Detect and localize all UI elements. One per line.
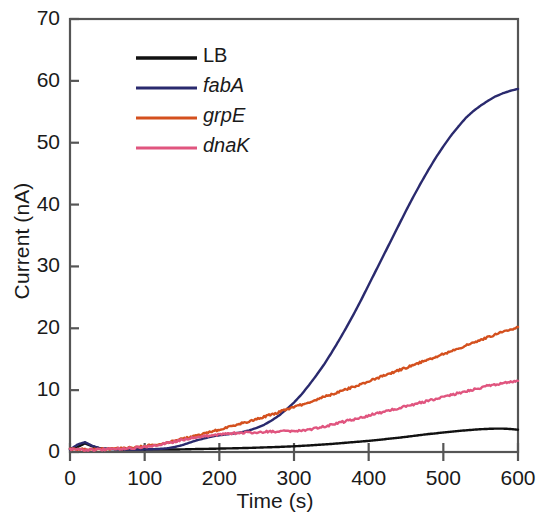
y-tick-label: 0 xyxy=(14,439,60,463)
y-tick-label: 10 xyxy=(14,377,60,401)
legend-label-lb: LB xyxy=(203,44,227,67)
x-tick-label: 500 xyxy=(413,466,473,490)
legend-swatches xyxy=(136,58,197,148)
axes-frame xyxy=(70,19,518,452)
chart-figure: Current (nA) Time (s) 010203040506070 01… xyxy=(0,0,550,520)
x-tick-label: 400 xyxy=(339,466,399,490)
x-tick-label: 300 xyxy=(264,466,324,490)
y-tick-label: 50 xyxy=(14,130,60,154)
x-tick-label: 600 xyxy=(488,466,548,490)
y-axis-title-wrap: Current (nA) xyxy=(10,76,36,406)
x-axis-title: Time (s) xyxy=(0,489,550,513)
y-tick-label: 60 xyxy=(14,68,60,92)
plot-frame xyxy=(70,19,518,452)
series-line-dnak xyxy=(70,381,518,451)
legend-label-dnak: dnaK xyxy=(203,134,250,157)
y-tick-label: 30 xyxy=(14,253,60,277)
legend-label-faba: fabA xyxy=(203,74,244,97)
x-tick-label: 100 xyxy=(115,466,175,490)
y-tick-label: 40 xyxy=(14,192,60,216)
y-tick-label: 70 xyxy=(14,6,60,30)
y-tick-label: 20 xyxy=(14,315,60,339)
series-lines xyxy=(70,89,518,451)
x-tick-label: 0 xyxy=(40,466,100,490)
x-tick-label: 200 xyxy=(189,466,249,490)
line-chart-plot xyxy=(0,0,550,520)
legend-label-grpe: grpE xyxy=(203,104,245,127)
